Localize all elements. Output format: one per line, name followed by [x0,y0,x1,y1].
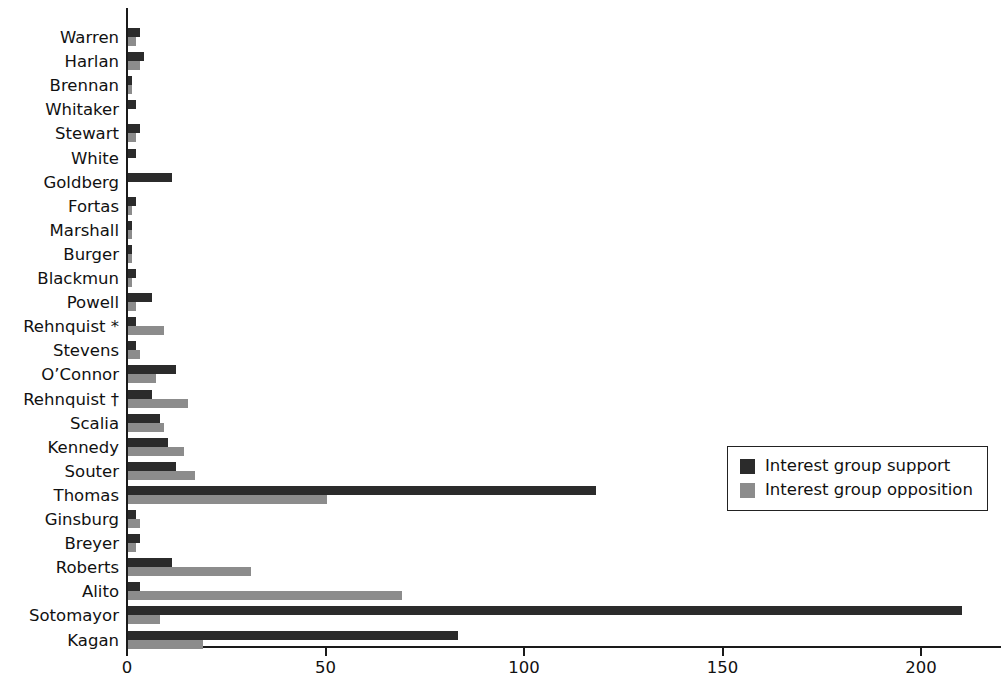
legend-item[interactable]: Interest group support [740,454,973,478]
bar-opposition [128,615,160,624]
bar-opposition [128,543,136,552]
legend-label: Interest group opposition [765,478,973,502]
bar-opposition [128,302,136,311]
bar-support [128,462,176,471]
bar-opposition [128,350,140,359]
category-label: Goldberg [0,171,119,195]
x-axis-tick [920,648,922,656]
category-label: Powell [0,291,119,315]
bar-support [128,245,132,254]
bar-support [128,486,596,495]
bar-opposition [128,278,132,287]
bar-opposition [128,471,195,480]
category-label: Warren [0,26,119,50]
bar-support [128,317,136,326]
bar-opposition [128,640,203,649]
bar-support [128,534,140,543]
bar-opposition [128,374,156,383]
chart-row: Roberts [0,556,1007,580]
chart-row: Rehnquist † [0,388,1007,412]
x-axis-tick [523,648,525,656]
bar-opposition [128,591,402,600]
bar-support [128,173,172,182]
bar-support [128,293,152,302]
bar-opposition [128,85,132,94]
category-label: Brennan [0,74,119,98]
bar-opposition [128,230,132,239]
bar-opposition [128,206,132,215]
chart-row: Fortas [0,195,1007,219]
legend-label: Interest group support [765,454,950,478]
bar-opposition [128,133,136,142]
bar-support [128,197,136,206]
category-label: Kennedy [0,436,119,460]
chart-row: O’Connor [0,363,1007,387]
category-label: Sotomayor [0,604,119,628]
category-label: Rehnquist † [0,388,119,412]
category-label: Scalia [0,412,119,436]
bar-opposition [128,519,140,528]
category-label: Fortas [0,195,119,219]
category-label: Breyer [0,532,119,556]
x-axis-tick [722,648,724,656]
category-label: White [0,147,119,171]
chart-row: Whitaker [0,98,1007,122]
bar-support [128,606,962,615]
bar-support [128,269,136,278]
horizontal-bar-chart: WarrenHarlanBrennanWhitakerStewartWhiteG… [0,0,1007,686]
chart-row: Powell [0,291,1007,315]
chart-row: Marshall [0,219,1007,243]
category-label: Roberts [0,556,119,580]
category-label: Kagan [0,629,119,653]
bar-opposition [128,399,188,408]
legend-swatch-support-icon [740,459,755,474]
bar-support [128,558,172,567]
chart-row: Burger [0,243,1007,267]
category-label: Stevens [0,339,119,363]
bar-opposition [128,447,184,456]
chart-row: Ginsburg [0,508,1007,532]
category-label: Whitaker [0,98,119,122]
category-label: O’Connor [0,363,119,387]
bar-opposition [128,37,136,46]
category-label: Rehnquist * [0,315,119,339]
chart-row: Alito [0,580,1007,604]
category-label: Burger [0,243,119,267]
category-label: Blackmun [0,267,119,291]
chart-row: White [0,147,1007,171]
bar-opposition [128,61,140,70]
chart-row: Warren [0,26,1007,50]
chart-row: Harlan [0,50,1007,74]
chart-legend: Interest group supportInterest group opp… [727,446,988,511]
bar-opposition [128,495,327,504]
category-label: Marshall [0,219,119,243]
chart-row: Blackmun [0,267,1007,291]
category-label: Ginsburg [0,508,119,532]
legend-swatch-opposition-icon [740,483,755,498]
legend-item[interactable]: Interest group opposition [740,478,973,502]
bar-support [128,221,132,230]
bar-support [128,124,140,133]
bar-support [128,100,136,109]
chart-row: Stewart [0,122,1007,146]
chart-row: Sotomayor [0,604,1007,628]
chart-row: Kagan [0,629,1007,653]
chart-row: Goldberg [0,171,1007,195]
bar-support [128,76,132,85]
bar-support [128,510,136,519]
x-axis-tick-label: 100 [494,657,554,679]
x-axis-tick [126,648,128,656]
bar-support [128,52,144,61]
x-axis-tick-label: 0 [97,657,157,679]
x-axis-tick [325,648,327,656]
category-label: Thomas [0,484,119,508]
chart-row: Scalia [0,412,1007,436]
chart-row: Rehnquist * [0,315,1007,339]
bar-support [128,390,152,399]
chart-row: Breyer [0,532,1007,556]
bar-opposition [128,254,132,263]
bar-support [128,149,136,158]
x-axis-tick-label: 200 [891,657,951,679]
bar-support [128,28,140,37]
bar-support [128,414,160,423]
